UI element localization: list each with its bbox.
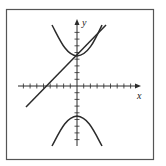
y-axis-label: y	[81, 17, 87, 28]
x-axis-label: x	[136, 90, 142, 101]
figure-frame	[7, 10, 154, 160]
graph-figure: x y	[0, 0, 166, 166]
